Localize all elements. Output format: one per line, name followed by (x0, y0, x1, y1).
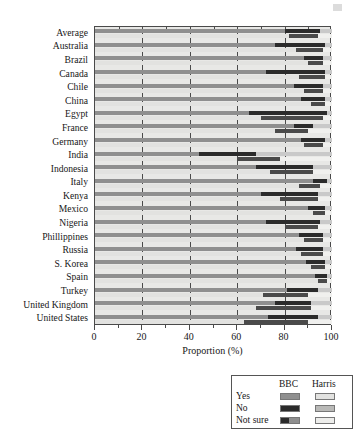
y-axis-label-italy: Italy (70, 177, 88, 187)
bar-segment-bbc-Not-sure (327, 179, 332, 183)
bar-row (95, 136, 330, 150)
legend-swatch-harris (315, 405, 335, 412)
bar-bbc (95, 315, 330, 319)
bar-segment-harris-Not-sure (323, 48, 332, 52)
legend-swatch-harris (315, 417, 335, 424)
bar-segment-bbc-Yes (95, 56, 304, 60)
bar-segment-bbc-Not-sure (256, 152, 332, 156)
bar-segment-bbc-Not-sure (313, 124, 332, 128)
y-axis-label-phillippines: Phillippines (42, 232, 88, 242)
bar-segment-bbc-Not-sure (313, 165, 332, 169)
legend-swatch-bbc (280, 393, 300, 400)
bar-bbc (95, 247, 330, 251)
x-tick-label-40: 40 (184, 331, 194, 343)
bar-segment-harris-No (311, 265, 325, 269)
bar-segment-harris-Yes (95, 238, 304, 242)
bar-harris (95, 211, 330, 215)
y-axis-label-united-states: United States (37, 313, 88, 323)
y-axis-label-germany: Germany (52, 137, 88, 147)
bar-segment-bbc-Yes (95, 206, 308, 210)
bar-segment-bbc-Not-sure (318, 192, 332, 196)
bar-segment-bbc-No (275, 301, 311, 305)
bar-segment-bbc-Yes (95, 315, 268, 319)
bar-segment-harris-Yes (95, 225, 285, 229)
bar-bbc (95, 111, 330, 115)
legend-swatch-bbc (280, 417, 300, 424)
bar-row (95, 68, 330, 82)
bar-row (95, 258, 330, 272)
y-axis-label-australia: Australia (53, 41, 88, 51)
bar-row (95, 163, 330, 177)
y-axis-label-indonesia: Indonesia (51, 164, 88, 174)
bar-segment-bbc-Yes (95, 247, 296, 251)
bar-bbc (95, 56, 330, 60)
bar-harris (95, 197, 330, 201)
bar-segment-bbc-No (294, 124, 313, 128)
bar-segment-harris-Not-sure (313, 170, 332, 174)
bar-segment-bbc-No (315, 274, 327, 278)
bar-segment-bbc-No (266, 220, 321, 224)
bar-row (95, 149, 330, 163)
bar-segment-bbc-Not-sure (325, 97, 332, 101)
bar-row (95, 231, 330, 245)
bar-segment-bbc-Yes (95, 179, 313, 183)
bar-segment-bbc-Yes (95, 288, 287, 292)
y-axis-label-france: France (62, 123, 88, 133)
bar-row (95, 122, 330, 136)
x-axis-title: Proportion (%) (94, 345, 331, 356)
bar-segment-bbc-Yes (95, 29, 285, 33)
bar-segment-harris-No (296, 48, 322, 52)
legend-row-no: No (232, 403, 352, 414)
bar-harris (95, 238, 330, 242)
bar-segment-harris-No (311, 102, 325, 106)
corner-artifact (333, 4, 342, 11)
bar-segment-harris-No (304, 143, 323, 147)
x-tick-20 (141, 325, 142, 330)
bar-segment-harris-Not-sure (325, 75, 332, 79)
bar-row (95, 81, 330, 95)
bar-bbc (95, 288, 330, 292)
bar-segment-bbc-Not-sure (325, 138, 332, 142)
legend-row-yes: Yes (232, 391, 352, 402)
bar-segment-harris-Not-sure (323, 143, 332, 147)
bar-segment-bbc-Yes (95, 233, 299, 237)
bar-segment-bbc-Yes (95, 43, 275, 47)
bar-row (95, 217, 330, 231)
x-tick-60 (236, 325, 237, 330)
bar-segment-harris-Yes (95, 306, 256, 310)
bar-segment-harris-No (263, 293, 308, 297)
bar-segment-bbc-No (261, 192, 318, 196)
plot-area (94, 26, 331, 325)
bar-segment-bbc-No (294, 84, 322, 88)
bar-segment-harris-Not-sure (327, 279, 332, 283)
bar-segment-bbc-No (306, 260, 325, 264)
bar-bbc (95, 179, 330, 183)
bar-segment-harris-Yes (95, 116, 261, 120)
bar-segment-bbc-Yes (95, 84, 294, 88)
y-axis-label-average: Average (56, 28, 88, 38)
bar-segment-harris-Not-sure (308, 129, 332, 133)
bar-segment-bbc-Yes (95, 152, 199, 156)
bar-segment-harris-Yes (95, 129, 275, 133)
bar-harris (95, 157, 330, 161)
bar-segment-bbc-Not-sure (320, 29, 332, 33)
bar-segment-bbc-Not-sure (323, 233, 332, 237)
bar-harris (95, 143, 330, 147)
x-tick-100 (331, 325, 332, 330)
bar-harris (95, 116, 330, 120)
bar-segment-bbc-Not-sure (323, 247, 332, 251)
bar-segment-bbc-No (249, 111, 327, 115)
bar-segment-harris-Not-sure (323, 89, 332, 93)
bar-segment-harris-Not-sure (308, 320, 332, 324)
bar-segment-harris-No (237, 157, 280, 161)
bar-segment-harris-No (304, 89, 323, 93)
bar-bbc (95, 84, 330, 88)
bar-bbc (95, 29, 330, 33)
x-tick-label-20: 20 (136, 331, 146, 343)
bar-segment-harris-Not-sure (323, 252, 332, 256)
bar-row (95, 41, 330, 55)
y-axis-label-china: China (65, 96, 88, 106)
bar-segment-bbc-Yes (95, 220, 266, 224)
bar-harris (95, 48, 330, 52)
bar-bbc (95, 274, 330, 278)
